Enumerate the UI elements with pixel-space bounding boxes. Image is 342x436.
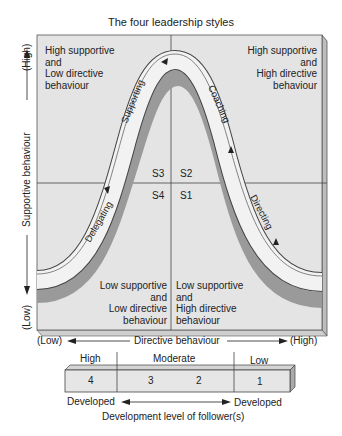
arrow-right-icon	[222, 399, 231, 405]
quadrant-bottom-right: Low supportiveand High directivebehaviou…	[176, 280, 243, 326]
dev-right-label: Developed	[234, 397, 282, 408]
panel-right-edge	[322, 35, 327, 336]
dev-cell-1: 1	[257, 376, 263, 387]
quadrant-bottom-left: Low supportiveand Low directivebehaviour	[100, 280, 167, 326]
dev-cell-3: 3	[148, 375, 154, 386]
y-axis-high: (High)	[21, 44, 32, 71]
dev-left-label: Developed	[67, 396, 115, 407]
quadrant-top-right: High supportiveand High directivebehavio…	[248, 45, 317, 91]
arrow-left-icon	[121, 399, 130, 405]
style-s3: S3	[152, 168, 164, 179]
dev-cell-2: 2	[196, 375, 202, 386]
quadrant-top-left: High supportiveand Low directivebehaviou…	[45, 45, 114, 91]
y-axis-low: (Low)	[21, 305, 32, 330]
arrow-left-icon	[67, 338, 76, 344]
style-s2: S2	[180, 168, 192, 179]
dev-cell-4: 4	[88, 375, 94, 386]
x-axis-low: (Low)	[37, 335, 62, 346]
dev-header-low: Low	[250, 355, 268, 366]
style-s4: S4	[152, 190, 164, 201]
style-s1: S1	[180, 190, 192, 201]
x-axis-high: (High)	[290, 335, 317, 346]
dev-header-high: High	[80, 353, 101, 364]
x-axis-label: Directive behaviour	[134, 335, 220, 346]
arrow-down-icon	[24, 286, 30, 295]
y-axis-label: Supportive behaviour	[21, 132, 32, 227]
dev-bar-side	[290, 365, 295, 392]
arrow-right-icon	[279, 338, 288, 344]
dev-header-moderate: Moderate	[153, 353, 195, 364]
dev-caption: Development level of follower(s)	[102, 411, 244, 422]
